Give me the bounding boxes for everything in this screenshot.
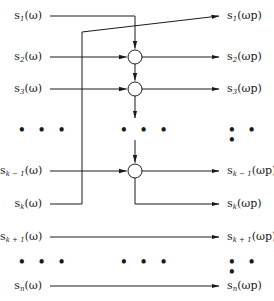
nodek-1-to-skp-path bbox=[135, 178, 219, 204]
label-arg: (ωp) bbox=[252, 164, 274, 177]
label-arg: (ωp) bbox=[252, 230, 274, 243]
ellipsis-right-upper: • • • bbox=[228, 125, 274, 145]
label-arg: (ωp) bbox=[237, 9, 262, 22]
label-arg: (ω) bbox=[25, 230, 43, 243]
output-label-sn: sn(ωp) bbox=[227, 280, 262, 292]
input-label-s1: s1(ω) bbox=[0, 10, 42, 22]
input-label-sk: sk(ω) bbox=[0, 198, 42, 210]
label-arg: (ωp) bbox=[237, 197, 262, 210]
label-arg: (ωp) bbox=[237, 50, 262, 63]
input-label-sn: sn(ω) bbox=[0, 280, 42, 292]
label-arg: (ω) bbox=[24, 279, 42, 292]
ellipsis-center-upper: • • • bbox=[120, 125, 171, 135]
combiner-node-k-1 bbox=[128, 164, 142, 178]
output-label-s2: s2(ωp) bbox=[227, 51, 262, 63]
input-label-sk+1: sk + 1(ω) bbox=[0, 231, 42, 243]
input-label-s3: s3(ω) bbox=[0, 83, 42, 95]
label-arg: (ωp) bbox=[237, 279, 262, 292]
input-label-sk-1: sk − 1(ω) bbox=[0, 165, 42, 177]
input-label-s2: s2(ω) bbox=[0, 51, 42, 63]
output-label-s1: s1(ωp) bbox=[227, 10, 262, 22]
label-arg: (ω) bbox=[25, 164, 43, 177]
ellipsis-right-lower: • • • bbox=[228, 257, 274, 277]
label-arg: (ω) bbox=[24, 82, 42, 95]
label-subscript: k + 1 bbox=[233, 236, 252, 244]
label-arg: (ωp) bbox=[237, 82, 262, 95]
output-label-sk+1: sk + 1(ωp) bbox=[227, 231, 274, 243]
output-label-s3: s3(ωp) bbox=[227, 83, 262, 95]
label-arg: (ω) bbox=[24, 197, 42, 210]
output-label-sk-1: sk − 1(ωp) bbox=[227, 165, 274, 177]
label-subscript: k − 1 bbox=[233, 170, 252, 178]
ellipsis-left-upper: • • • bbox=[18, 125, 69, 135]
s1-input-path bbox=[50, 16, 135, 49]
label-subscript: k − 1 bbox=[6, 170, 25, 178]
label-subscript: k + 1 bbox=[6, 236, 25, 244]
label-arg: (ω) bbox=[24, 50, 42, 63]
combiner-node-3 bbox=[128, 82, 142, 96]
ellipsis-center-lower: • • • bbox=[120, 257, 171, 267]
label-arg: (ω) bbox=[24, 9, 42, 22]
output-label-sk: sk(ωp) bbox=[227, 198, 262, 210]
ellipsis-left-lower: • • • bbox=[18, 257, 69, 267]
combiner-node-2 bbox=[128, 50, 142, 64]
